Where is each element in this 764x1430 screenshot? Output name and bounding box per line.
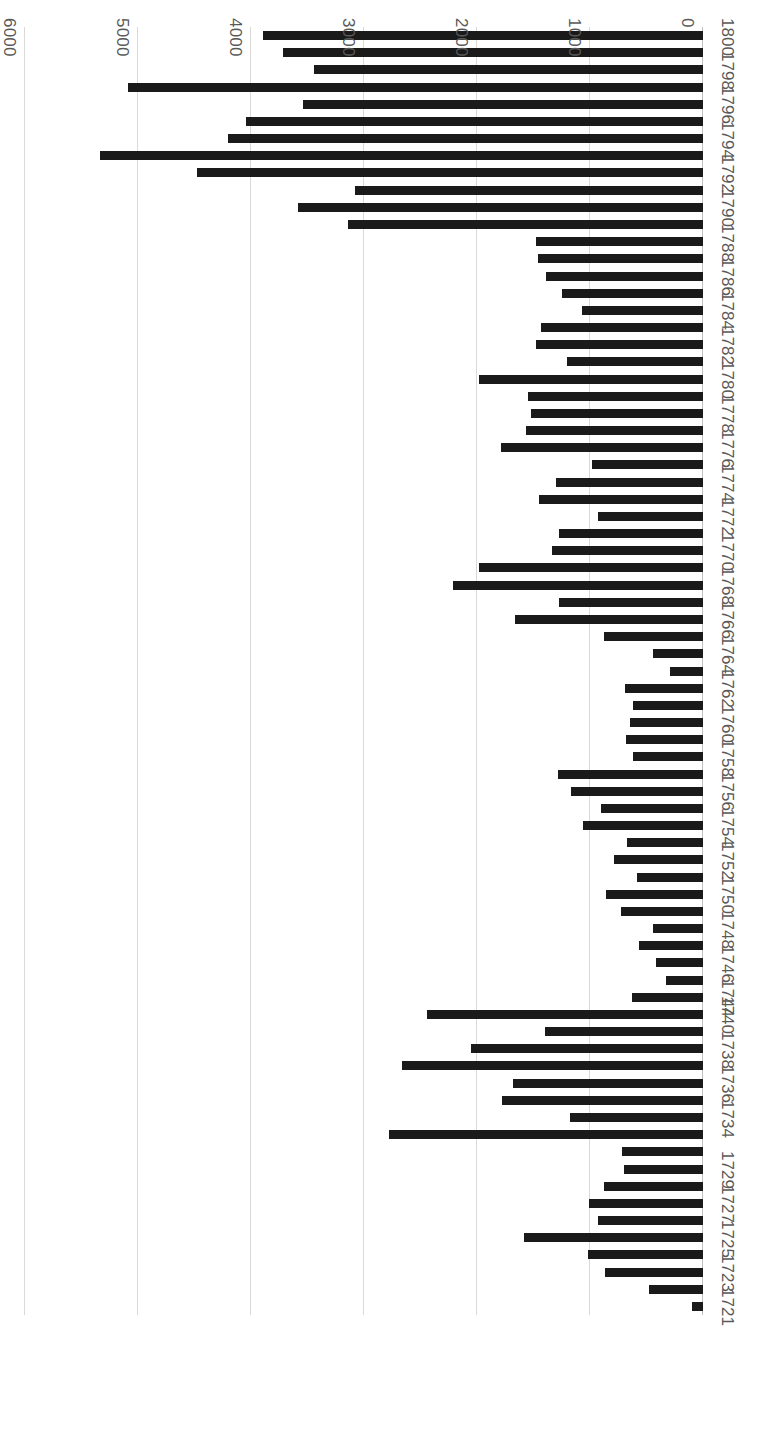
bar-row [25,903,703,920]
bar-row [25,834,703,851]
bar [528,392,703,401]
category-axis-tick-1794: 1794 [708,130,764,150]
bar [298,203,703,212]
category-axis-tick-1772: 1772 [708,507,764,527]
bar-row [25,456,703,473]
category-axis-tick-label: 1752 [717,842,737,880]
bar-row [25,594,703,611]
bar-row [25,1263,703,1280]
category-axis-tick-label: 1784 [717,292,737,330]
category-axis-tick-1796: 1796 [708,95,764,115]
bar [624,1165,703,1174]
bar-row [25,250,703,267]
bar [625,684,703,693]
value-axis-tick-label: 4000 [225,18,245,57]
category-axis-tick-label: 1794 [717,121,737,159]
category-axis-tick-label: 1729 [717,1151,737,1189]
category-axis-tick-label: 1772 [717,499,737,537]
bar-row [25,302,703,319]
category-axis-tick-1800: 1800 [708,27,764,47]
bar-row [25,886,703,903]
category-axis-tick-1768: 1768 [708,576,764,596]
bar-row [25,714,703,731]
category-axis-tick-label: 1754 [717,808,737,846]
category-axis-tick-1760: 1760 [708,714,764,734]
bar-row [25,182,703,199]
category-axis-tick-label: 1786 [717,258,737,296]
bar [589,1199,703,1208]
bar-row [25,542,703,559]
bar-row [25,662,703,679]
category-axis-tick-1725: 1725 [708,1229,764,1249]
category-axis-tick-1729: 1729 [708,1160,764,1180]
bar [637,873,703,882]
bar-row [25,353,703,370]
bar [389,1130,703,1139]
category-axis-tick-1774: 1774 [708,473,764,493]
bar [453,581,703,590]
category-axis-tick-1798: 1798 [708,61,764,81]
value-axis-tick-label: 0 [677,18,697,28]
bar [562,289,703,298]
bar-row [25,61,703,78]
bar [653,649,703,658]
bar [355,186,703,195]
bar-row [25,147,703,164]
category-axis-tick-1790: 1790 [708,198,764,218]
category-axis-tick-label: 1782 [717,327,737,365]
bar-row [25,1195,703,1212]
bar [558,770,703,779]
bar-row [25,508,703,525]
category-axis-tick-label: 1796 [717,86,737,124]
bar [100,151,703,160]
value-axis-tick-label: 1000 [564,18,584,57]
bar [627,838,703,847]
bar [592,460,703,469]
chart-figure: 0100020003000400050006000 17211723172517… [0,0,764,1430]
bar-row [25,1092,703,1109]
category-axis-tick-label: 1766 [717,602,737,640]
bar [524,1233,703,1242]
bar [598,512,703,521]
bar-row [25,474,703,491]
category-axis-tick-1723: 1723 [708,1263,764,1283]
category-axis-tick-label: 1744 [717,979,737,1017]
category-axis-tick-1750: 1750 [708,885,764,905]
bar-row [25,1109,703,1126]
bar [604,632,703,641]
bar [614,855,703,864]
category-axis-tick-label: 1778 [717,395,737,433]
bar-row [25,765,703,782]
bar-row [25,1246,703,1263]
bar-row [25,611,703,628]
category-axis-tick-1736: 1736 [708,1074,764,1094]
category-axis-tick-label: 1798 [717,52,737,90]
bar [692,1302,703,1311]
bar-row [25,319,703,336]
category-axis-tick-label: 1776 [717,430,737,468]
bar [546,272,703,281]
bar-row [25,216,703,233]
bar [197,168,703,177]
bar-row [25,336,703,353]
bar-row [25,937,703,954]
bar [348,220,703,229]
category-axis-tick-1748: 1748 [708,920,764,940]
bar [588,1250,703,1259]
bar [622,1147,703,1156]
bar [621,907,703,916]
bar-row [25,285,703,302]
bar [552,546,703,555]
bar [653,924,703,933]
category-axis-tick-label: 1768 [717,567,737,605]
bar [560,598,704,607]
category-axis-tick-1744: 1744 [708,988,764,1008]
bar [545,1027,703,1036]
bar-chart: 0100020003000400050006000 17211723172517… [0,0,764,1430]
category-axis-tick-1754: 1754 [708,817,764,837]
bar-row [25,1143,703,1160]
category-axis-tick-label: 1727 [717,1185,737,1223]
category-axis-tick-label: 1721 [717,1289,737,1327]
bar [531,409,703,418]
bar [571,787,703,796]
